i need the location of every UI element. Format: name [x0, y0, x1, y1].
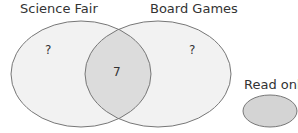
- intersection-value: 7: [113, 65, 121, 79]
- board-games-only-value: ?: [189, 43, 195, 57]
- science-fair-only-value: ?: [45, 43, 51, 57]
- set-label-science-fair: Science Fair: [20, 1, 98, 16]
- venn-diagram: [0, 0, 298, 133]
- set-label-board-games: Board Games: [150, 1, 238, 16]
- legend-label-read-only: Read only: [244, 77, 298, 92]
- read-only-swatch: [243, 95, 297, 127]
